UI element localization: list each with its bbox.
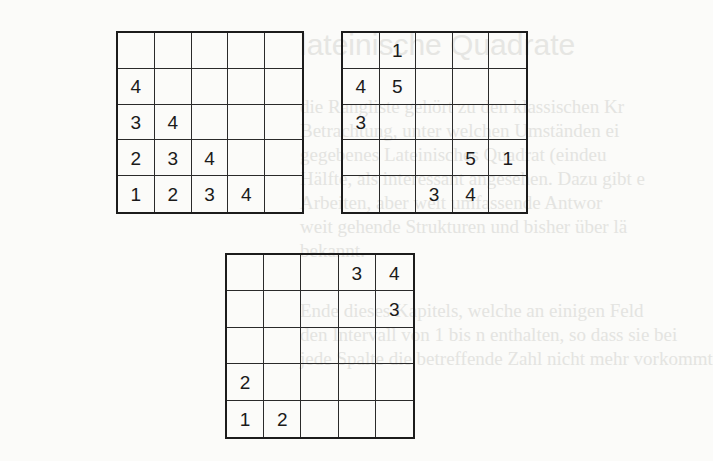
grid-cell: 1 xyxy=(227,401,264,437)
grid-cell xyxy=(376,364,413,400)
grid-cell xyxy=(264,291,301,327)
grid-cell: 4 xyxy=(343,69,380,105)
grid-cell xyxy=(265,140,302,176)
latin-square-grid-3: 343212 xyxy=(225,253,415,439)
grid-cell: 1 xyxy=(118,176,155,212)
grid-cell xyxy=(301,291,338,327)
grid-cell: 3 xyxy=(376,291,413,327)
grid-cell xyxy=(301,401,338,437)
grid-cell xyxy=(155,33,192,69)
grid-cell: 2 xyxy=(155,176,192,212)
grid-cell: 1 xyxy=(489,140,526,176)
grid-cell: 5 xyxy=(380,69,417,105)
grid-cell: 3 xyxy=(155,140,192,176)
grid-cell xyxy=(453,69,490,105)
grid-cell xyxy=(228,69,265,105)
grid-cell xyxy=(489,69,526,105)
grid-cell xyxy=(265,69,302,105)
grid-cell: 4 xyxy=(192,140,229,176)
grid-cell xyxy=(343,140,380,176)
grid-cell: 4 xyxy=(228,176,265,212)
grid-cell xyxy=(380,140,417,176)
grid-cell xyxy=(453,33,490,69)
grid-cell: 4 xyxy=(155,105,192,141)
grid-cell: 4 xyxy=(453,176,490,212)
grid-cell: 3 xyxy=(416,176,453,212)
grid-cell: 1 xyxy=(380,33,417,69)
grid-cell xyxy=(416,140,453,176)
grid-cell xyxy=(192,105,229,141)
grid-cell xyxy=(265,176,302,212)
grid-cell xyxy=(416,105,453,141)
grid-cell xyxy=(264,255,301,291)
grid-cell: 3 xyxy=(192,176,229,212)
grid-cell xyxy=(192,33,229,69)
grid-cell xyxy=(227,255,264,291)
grid-cell: 4 xyxy=(118,69,155,105)
grid-cell xyxy=(339,291,376,327)
grid-cell xyxy=(118,33,155,69)
grid-cell xyxy=(301,328,338,364)
grid-cell xyxy=(343,33,380,69)
grid-cell xyxy=(380,176,417,212)
grid-cell xyxy=(228,33,265,69)
grid-cell: 3 xyxy=(118,105,155,141)
grid-cell xyxy=(489,33,526,69)
grid-cell xyxy=(301,364,338,400)
grid-cell xyxy=(339,328,376,364)
grid-cell xyxy=(416,33,453,69)
grid-cell xyxy=(192,69,229,105)
latin-square-grid-2: 14535134 xyxy=(341,31,528,214)
grid-cell xyxy=(264,328,301,364)
grid-cell xyxy=(339,364,376,400)
grid-cell xyxy=(228,140,265,176)
grid-cell xyxy=(380,105,417,141)
latin-square-grid-1: 4342341234 xyxy=(116,31,304,214)
grid-cell xyxy=(339,401,376,437)
grid-cell xyxy=(416,69,453,105)
grid-cell: 2 xyxy=(227,364,264,400)
grid-cell xyxy=(489,105,526,141)
grid-cell xyxy=(155,69,192,105)
grid-cell: 4 xyxy=(376,255,413,291)
grid-cell: 5 xyxy=(453,140,490,176)
grid-cell xyxy=(343,176,380,212)
grid-cell xyxy=(265,33,302,69)
grid-cell xyxy=(227,328,264,364)
grid-cell: 3 xyxy=(339,255,376,291)
grid-cell xyxy=(376,401,413,437)
ghost-line: weit gehende Strukturen und bisher über … xyxy=(300,216,627,238)
grid-cell xyxy=(228,105,265,141)
grid-cell xyxy=(264,364,301,400)
grid-cell xyxy=(227,291,264,327)
grid-cell xyxy=(489,176,526,212)
grid-cell xyxy=(301,255,338,291)
grid-cell: 3 xyxy=(343,105,380,141)
grid-cell xyxy=(453,105,490,141)
grid-cell: 2 xyxy=(264,401,301,437)
grid-cell xyxy=(265,105,302,141)
grid-cell: 2 xyxy=(118,140,155,176)
grid-cell xyxy=(376,328,413,364)
